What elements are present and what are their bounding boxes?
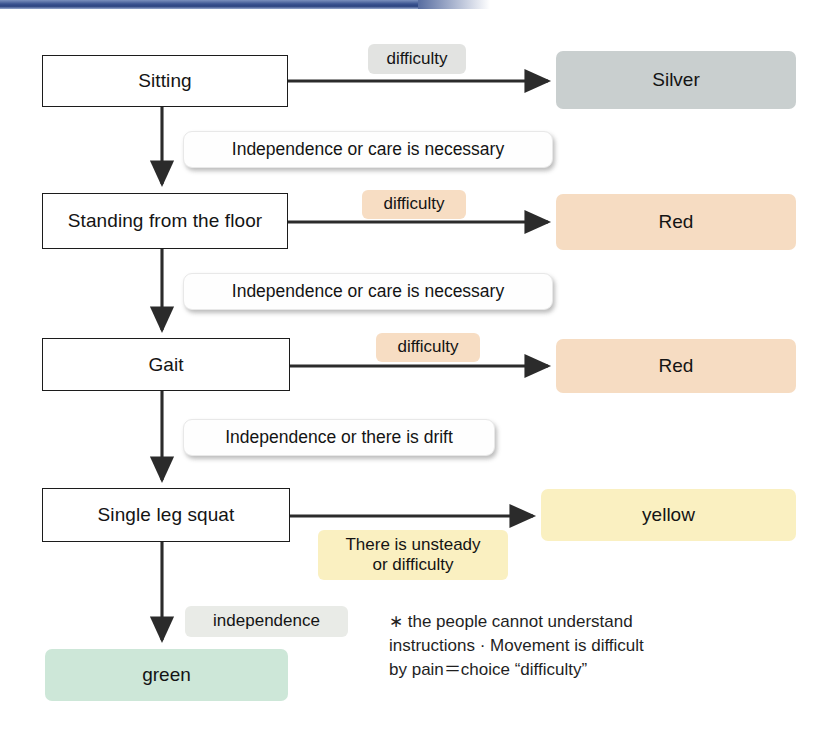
tag-label: difficulty	[386, 49, 447, 69]
process-box-sitting[interactable]: Sitting	[42, 55, 288, 107]
result-box-red-1[interactable]: Red	[556, 194, 796, 250]
condition-independence-or-care-1: Independence or care is necessary	[183, 131, 553, 168]
process-box-single-leg-squat[interactable]: Single leg squat	[42, 488, 290, 542]
process-box-label: Single leg squat	[98, 504, 235, 526]
process-box-gait[interactable]: Gait	[42, 338, 290, 391]
tag-independence: independence	[185, 606, 348, 637]
tag-label: difficulty	[397, 337, 458, 357]
tag-difficulty-2: difficulty	[362, 190, 466, 219]
result-box-label: Red	[659, 355, 694, 377]
footnote-text: ∗ the people cannot understand instructi…	[389, 610, 819, 682]
result-box-label: Silver	[652, 69, 700, 91]
result-box-green[interactable]: green	[45, 649, 288, 701]
result-box-silver[interactable]: Silver	[556, 51, 796, 109]
result-box-label: green	[142, 664, 191, 686]
result-box-label: Red	[659, 211, 694, 233]
condition-label: Independence or care is necessary	[232, 139, 504, 160]
process-box-label: Gait	[148, 354, 183, 376]
condition-independence-or-care-2: Independence or care is necessary	[183, 273, 553, 310]
result-box-red-2[interactable]: Red	[556, 339, 796, 393]
tag-label: difficulty	[383, 194, 444, 214]
top-accent-bar	[0, 0, 418, 9]
flowchart-canvas: Sitting Standing from the floor Gait Sin…	[0, 0, 834, 746]
condition-independence-or-drift: Independence or there is drift	[183, 419, 495, 456]
result-box-yellow[interactable]: yellow	[541, 489, 796, 541]
tag-unsteady-or-difficulty: There is unsteady or difficulty	[318, 530, 508, 580]
condition-label: Independence or there is drift	[225, 427, 453, 448]
tag-difficulty-1: difficulty	[368, 44, 466, 74]
tag-label: There is unsteady or difficulty	[345, 535, 480, 575]
process-box-label: Standing from the floor	[68, 210, 263, 232]
top-accent-bar-fade	[418, 0, 490, 9]
tag-difficulty-3: difficulty	[376, 333, 480, 362]
condition-label: Independence or care is necessary	[232, 281, 504, 302]
tag-label: independence	[213, 611, 320, 631]
result-box-label: yellow	[642, 504, 695, 526]
process-box-standing-from-the-floor[interactable]: Standing from the floor	[42, 193, 288, 249]
process-box-label: Sitting	[138, 70, 192, 92]
